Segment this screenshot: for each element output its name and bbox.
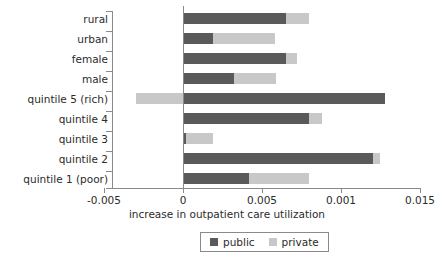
legend-label-public: public: [223, 236, 255, 248]
x-axis-tick: [104, 188, 105, 193]
bar-row: [0, 113, 430, 124]
x-axis-title-wrap: increase in outpatient care utilization: [0, 208, 430, 220]
bar-row: [0, 173, 430, 184]
bar-row: [0, 73, 430, 84]
bar-segment-private: [234, 73, 277, 84]
x-axis-tick: [183, 188, 184, 193]
private-swatch-icon: [269, 238, 277, 246]
x-axis-tick: [341, 188, 342, 193]
bar-row: [0, 53, 430, 64]
x-axis-title: increase in outpatient care utilization: [129, 208, 325, 220]
bar-segment-private: [373, 153, 381, 164]
bar-segment-public: [183, 53, 286, 64]
x-axis-tick-label: 0.005: [247, 194, 277, 206]
bar-segment-public: [183, 113, 309, 124]
x-axis-tick: [262, 188, 263, 193]
x-axis-tick-label: 0.015: [405, 194, 435, 206]
bar-segment-public: [183, 13, 286, 24]
bar-segment-private: [136, 93, 183, 104]
bar-row: [0, 153, 430, 164]
legend-item-public: public: [210, 236, 255, 248]
bar-segment-public: [183, 173, 249, 184]
x-axis-tick-label: 0.001: [326, 194, 356, 206]
bar-segment-private: [309, 113, 322, 124]
bar-segment-private: [213, 33, 275, 44]
zero-line: [183, 6, 184, 188]
bar-row: [0, 93, 430, 104]
x-axis-spine: [112, 188, 420, 189]
x-axis-tick-label: 0: [180, 194, 187, 206]
plot-area: rural urban female male quintile 5 (rich…: [0, 0, 430, 192]
public-swatch-icon: [210, 238, 218, 246]
bar-row: [0, 13, 430, 24]
bar-row: [0, 33, 430, 44]
bar-row: [0, 133, 430, 144]
chart-legend: public private: [200, 232, 329, 252]
bar-segment-private: [249, 173, 309, 184]
x-axis-tick-label: -0.005: [87, 194, 121, 206]
x-axis-tick: [420, 188, 421, 193]
legend-item-private: private: [269, 236, 319, 248]
legend-label-private: private: [282, 236, 319, 248]
bar-series-group: [0, 0, 430, 192]
bar-segment-private: [186, 133, 213, 144]
bar-segment-private: [286, 13, 310, 24]
bar-segment-public: [183, 153, 373, 164]
bar-segment-public: [183, 33, 213, 44]
bar-segment-public: [183, 93, 385, 104]
bar-segment-private: [286, 53, 297, 64]
bar-segment-public: [183, 73, 234, 84]
